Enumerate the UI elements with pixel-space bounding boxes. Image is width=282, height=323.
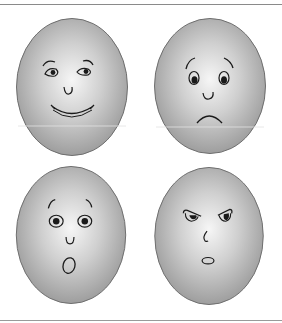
surprised-face-icon: [14, 165, 128, 305]
happy-face-icon: [15, 17, 129, 157]
angry-face: Angry face: [153, 166, 267, 306]
surprised-face: Surprised face: [14, 165, 128, 305]
happy-face: Happy face: [15, 17, 129, 157]
sad-face: Sad face: [153, 17, 267, 157]
sad-face-icon: [153, 17, 267, 157]
top-divider: [0, 4, 282, 5]
angry-face-icon: [153, 166, 267, 306]
bottom-divider: [0, 320, 282, 321]
